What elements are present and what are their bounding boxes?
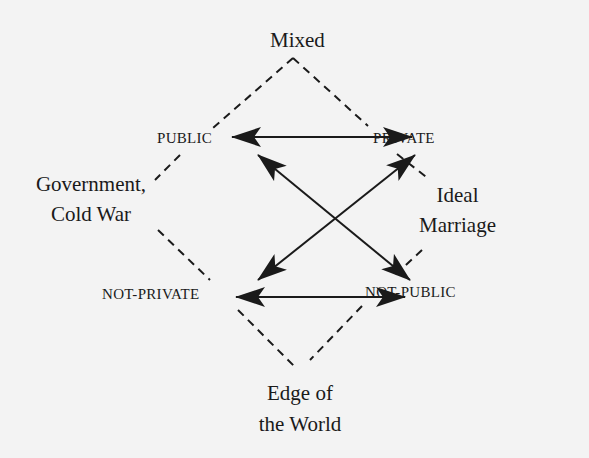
node-not-private: NOT-PRIVATE <box>102 287 199 302</box>
dashed-diamond <box>155 58 430 367</box>
corner-label-bottom: Edge of the World <box>245 383 355 435</box>
corner-label-right-line2: Marriage <box>410 215 505 236</box>
corner-label-top: Mixed <box>270 30 325 51</box>
corner-label-left-line2: Cold War <box>26 204 156 225</box>
corner-label-bottom-line2: the World <box>245 414 355 435</box>
corner-label-right: Ideal Marriage <box>410 185 505 236</box>
node-not-public: NOT-PUBLIC <box>365 285 456 300</box>
node-private: PRIVATE <box>373 131 435 146</box>
corner-label-right-line1: Ideal <box>410 185 505 206</box>
corner-label-bottom-line1: Edge of <box>245 383 355 404</box>
corner-label-left-line1: Government, <box>26 174 156 195</box>
corner-label-left: Government, Cold War <box>26 174 156 225</box>
node-public: PUBLIC <box>157 131 212 146</box>
relation-arrows <box>232 137 415 297</box>
